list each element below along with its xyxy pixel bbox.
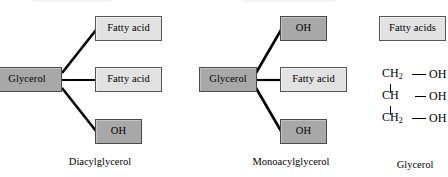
chem-atom-ch2-bottom: CH2 [382,111,409,125]
scan-artifact-top-left [33,0,111,2]
chem-bond-horizontal-top [412,74,426,75]
node-oh-bottom-diacylglycerol: OH [95,119,142,144]
chem-atom-ch-middle: CH [382,89,409,103]
scan-artifact-top-right [243,0,335,2]
chem-subscript-bottom: 2 [399,116,403,125]
chem-bond-horizontal-middle [415,96,426,97]
chem-row-3: CH2 OH [382,107,446,129]
chem-row-2: CH OH [382,85,446,107]
chem-subscript-top: 2 [399,72,403,81]
chem-group-oh-bottom: OH [429,112,446,124]
chem-row-1: CH2 OH [382,63,446,85]
chem-atom-ch2-top: CH2 [382,67,409,81]
node-fatty-acids-product: Fatty acids [379,16,446,41]
glycerol-structural-formula: CH2 OH CH OH CH2 OH [382,63,446,129]
caption-glycerol: Glycerol [382,160,448,171]
caption-diacylglycerol: Diacylglycerol [40,157,160,168]
node-fatty-acid-middle-monoacylglycerol: Fatty acid [280,67,347,92]
node-fatty-acid-top-diacylglycerol: Fatty acid [95,16,162,41]
chem-group-oh-top: OH [429,68,446,80]
node-glycerol-monoacylglycerol: Glycerol [199,67,257,92]
node-oh-top-monoacylglycerol: OH [280,16,327,41]
chem-bond-horizontal-bottom [412,118,426,119]
node-oh-bottom-monoacylglycerol: OH [280,119,327,144]
chem-group-oh-middle: OH [429,90,446,102]
figure-canvas: Glycerol Fatty acid Fatty acid OH Diacyl… [0,0,448,177]
node-glycerol-diacylglycerol: Glycerol [0,67,62,92]
node-fatty-acid-middle-diacylglycerol: Fatty acid [95,67,162,92]
caption-monoacylglycerol: Monoacylglycerol [225,157,357,168]
